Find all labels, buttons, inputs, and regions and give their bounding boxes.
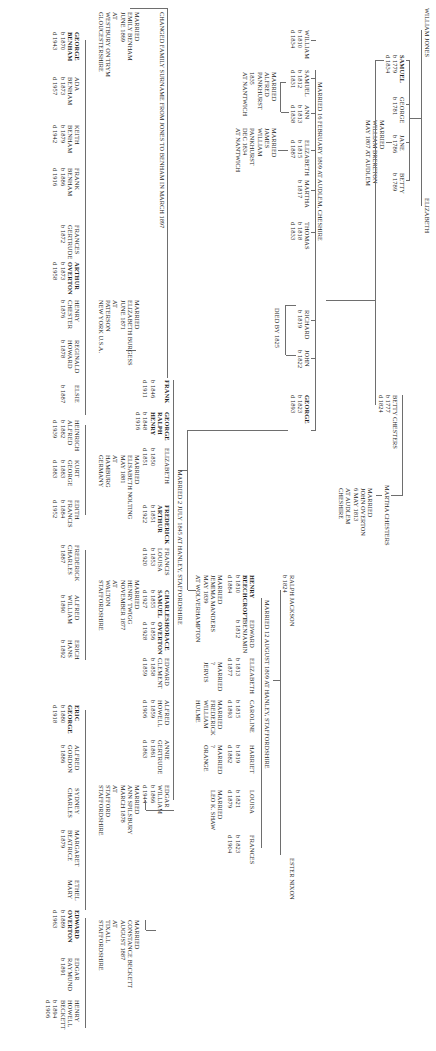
person-ralph-jackson: RALPH JACKSON b 1824 xyxy=(282,575,296,626)
connector xyxy=(376,60,384,61)
samuel-betty-marriage-line xyxy=(375,60,376,405)
connector xyxy=(386,142,392,143)
connector xyxy=(311,232,316,233)
francis-marriage-note: MARRIED HENRY TWIGG NOVEMBER 1877 AT WAL… xyxy=(98,580,141,631)
connector xyxy=(311,430,316,431)
connector xyxy=(281,112,289,113)
person-frank-1846: FRANK b 1846 d 1911 xyxy=(142,380,171,403)
person-henry-beechcroft: HENRY BEECHCROFT b 1810 d 1884 xyxy=(227,575,256,621)
person-harriet-1819: HARRIET b 1819 d 1882 xyxy=(227,745,256,773)
connector xyxy=(311,320,316,321)
person-frank-benham: FRANK BENHAM b 1886 d 1916 xyxy=(52,168,81,196)
connector xyxy=(280,82,281,112)
person-frances-gertrude: FRANCES GERTRUDE b 1872 xyxy=(59,225,81,260)
root-mother: ELIZABETH xyxy=(424,198,431,233)
person-reginald-howard: REGINALD HOWARD b 1878 xyxy=(59,340,81,373)
connector xyxy=(145,920,146,930)
connector xyxy=(406,142,410,143)
connector xyxy=(85,40,86,240)
person-horace-overton: HORACE OVERTON b 1856 d 1928 xyxy=(142,622,171,655)
person-elizabeth-1813: ELIZABETH b 1813 d 1877 xyxy=(227,658,256,694)
connector xyxy=(85,710,86,910)
person-thomas-1818: THOMAS b 1818 d 1833 xyxy=(289,222,311,250)
person-edward-benjamin: EDWARD BENJAMIN b 1812 xyxy=(234,620,256,653)
surname-change-note: CHANGED FAMILY SURNAME FROM JONES TO BEN… xyxy=(159,12,166,228)
charles-marriage-note: MARRIED ANN SPILSBURY MARCH 1878 AT STAF… xyxy=(98,785,141,836)
person-william-1810: WILLIAM b 1810 d 1834 xyxy=(289,30,311,59)
person-edward-clement: EDWARD CLEMENT b 1858 d 1859 xyxy=(142,658,171,689)
person-ada-benham: ADA BENHAM b 1873 d 1957 xyxy=(52,77,81,105)
person-betty-chesters: BETTY CHESTERS b 1777 d 1824 xyxy=(377,395,399,449)
person-george-benham: GEORGE BENHAM b 1870 d 1943 xyxy=(52,32,81,61)
connector xyxy=(410,118,422,119)
connector xyxy=(326,300,376,301)
connector xyxy=(311,190,316,191)
person-samuel-1812: SAMUEL b 1812 d 1831 xyxy=(289,70,311,97)
samuel-children-line xyxy=(315,70,316,430)
person-george-1823: GEORGE b 1823 d 1893 xyxy=(289,395,311,424)
person-eric-george: ERIC GEORGE b 1880 d 1918 xyxy=(52,705,81,734)
person-kurt-george: KURT GEORGE b 1883 d 1883 xyxy=(52,460,81,487)
connector xyxy=(311,40,316,41)
connector xyxy=(311,113,316,114)
person-keith-benham: KEITH BENHAM b 1879 d 1942 xyxy=(52,125,81,153)
connector xyxy=(402,395,403,495)
person-henry-howell-beckett: HENRY HOWELL BECKETT b 1894 d 1906 xyxy=(45,1000,81,1029)
person-francis-louisa: FRANCIS LOUISA b 1853 d 1920 xyxy=(142,548,171,576)
connector xyxy=(145,800,146,810)
person-frederick-arthur: FREDERICK ARTHUR b 1851 d 1922 xyxy=(142,505,171,544)
person-george-ralph-henry: GEORGE RALPH HENRY b 1848 d 1916 xyxy=(135,412,171,441)
connector xyxy=(85,918,86,1028)
connector xyxy=(285,305,286,355)
person-caroline-1815: CAROLINE b 1815 d 1893 xyxy=(227,700,256,733)
person-elizabeth-1815: ELIZABETH b 1815 d 1887 xyxy=(289,140,311,176)
connector xyxy=(281,82,286,83)
person-ester-nixon: ESTER NIXON xyxy=(289,858,296,900)
person-ann-1813: ANN b 1813 d 1838 xyxy=(289,105,311,123)
family-tree-page: WILLIAM JONES ELIZABETH SAMUEL b 1779 d … xyxy=(0,0,436,1051)
connector xyxy=(286,305,296,306)
person-martha-1817: MARTHA b 1817 xyxy=(297,180,311,208)
connector xyxy=(278,150,288,151)
connector xyxy=(130,8,168,9)
elizabeth-jackson-marriage-note: MARRIED ? JERVIS xyxy=(202,662,224,691)
jackson-children-line xyxy=(261,598,262,848)
frederick-marriage-note: MARRIED ELISABETH NOLTING MAY 1881 AT HA… xyxy=(98,455,141,519)
elizabeth-marriage-note: MARRIED JAMES WILLIAM PANKHURST DEC 1834… xyxy=(235,128,278,172)
jackson-marriage-label: MARRIED 12 AUGUST 1809 AT HANLEY, STAFFO… xyxy=(264,600,271,769)
connector xyxy=(376,495,382,496)
person-frederick-charles: FREDERICK CHARLES b 1887 xyxy=(59,545,81,581)
person-heinrich-alfred: HEINRICH ALFRED b 1882 d 1939 xyxy=(52,420,81,451)
connector xyxy=(188,430,288,431)
connector xyxy=(85,425,86,515)
person-richard-1819: RICHARD b 1819 xyxy=(297,310,311,339)
harriet-marriage-note: MARRIED ? ORANGE xyxy=(202,745,224,774)
connector xyxy=(311,358,316,359)
person-ethel-mary: ETHEL MARY xyxy=(67,880,81,901)
person-john-1822: JOHN b 1822 xyxy=(297,350,311,368)
person-betty-1789: BETTY b 1789 xyxy=(392,173,406,194)
person-edward-overton: EDWARD OVERTON b 1889 d 1963 xyxy=(52,910,81,943)
person-louisa-1821: LOUISA b 1821 d 1879 xyxy=(227,790,256,814)
person-sydney-charles: SYDNEY CHARLES xyxy=(67,788,81,818)
root-father: WILLIAM JONES xyxy=(424,8,431,57)
person-elizabeth-1850: ELIZABETH b 1850 d 1851 xyxy=(142,448,171,484)
connector xyxy=(406,180,410,181)
person-elsie: ELSIE b 1887 xyxy=(59,385,81,403)
person-erich-hans: ERICH HANS b 1892 xyxy=(59,640,81,660)
horace-marriage-note: MARRIED CONSTANCE BECKETT AUGUST 1887 AT… xyxy=(98,920,141,988)
person-henry-chester: HENRY CHESTER b 1876 xyxy=(59,300,81,329)
person-annie-gertrude: ANNIE GERTRUDE b 1861 d 1863 xyxy=(142,740,171,775)
frank-marriage-note: MARRIED EMILY BENHAM JUNE 1869 AT WESTBU… xyxy=(98,12,141,77)
connector xyxy=(406,60,410,61)
sibling-line xyxy=(409,60,410,180)
ann-marriage-note: MARRIED ALFRED PANKHURST 1835 AT NANTWIC… xyxy=(242,72,278,116)
jackson-marriage-line xyxy=(280,590,281,855)
person-martha-chesters: MARTHA CHESTERS xyxy=(384,485,391,546)
connector xyxy=(188,590,196,591)
person-alfred-howell: ALFRED HOWELL b 1859 d 1906 xyxy=(142,700,171,728)
person-alfred-william: ALFRED WILLIAM b 1890 xyxy=(59,595,81,624)
louisa-marriage-note: MARRIED LEO K. SHAW xyxy=(210,790,224,830)
caroline-marriage-note: MARRIED FREDERICK WILLIAM HULME xyxy=(195,700,224,736)
connector xyxy=(391,495,403,496)
